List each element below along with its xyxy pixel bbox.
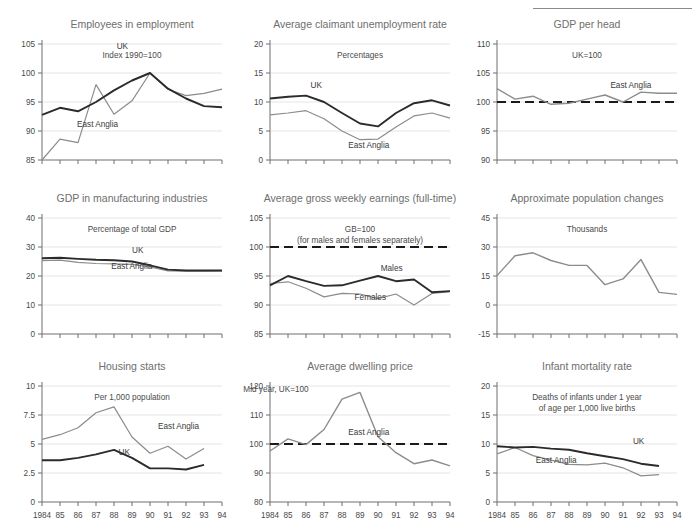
chart-subtitle: Index 1990=100 xyxy=(103,51,162,60)
y-tick-label: 100 xyxy=(249,243,263,252)
chart-subtitle: Percentage of total GDP xyxy=(88,225,177,234)
chart-title: GDP in manufacturing industries xyxy=(57,192,208,204)
series-line-east-anglia xyxy=(42,73,222,160)
x-tick-label: 86 xyxy=(528,511,538,520)
series-label-females: Females xyxy=(355,293,386,302)
x-tick-label: 94 xyxy=(217,511,227,520)
y-tick-label: 5 xyxy=(485,469,490,478)
y-tick-label: 0 xyxy=(30,330,35,339)
x-tick-label: 90 xyxy=(145,511,155,520)
y-tick-label: 10 xyxy=(26,301,36,310)
series-line-uk xyxy=(270,96,450,127)
y-tick-label: 15 xyxy=(481,272,491,281)
y-tick-label: 90 xyxy=(481,156,491,165)
x-tick-label: 92 xyxy=(409,511,419,520)
y-tick-label: 15 xyxy=(481,411,491,420)
x-tick-label: 87 xyxy=(319,511,329,520)
series-label-east-anglia: East Anglia xyxy=(77,120,118,129)
series-label-east-anglia: East Anglia xyxy=(158,422,199,431)
x-tick-label: 1984 xyxy=(33,511,52,520)
chart-subtitle: Per 1,000 population xyxy=(94,393,170,402)
y-tick-label: 110 xyxy=(477,40,490,49)
chart-subtitle: Thousands xyxy=(567,225,608,234)
chart-title: Infant mortality rate xyxy=(542,360,632,372)
chart-subtitle: UK=100 xyxy=(572,51,602,60)
series-label-east-anglia: East Anglia xyxy=(536,456,577,465)
y-tick-label: 105 xyxy=(249,214,263,223)
chart-panel-average-dwelling-price: 8090100110120East AngliaAverage dwelling… xyxy=(228,350,458,532)
chart-subtitle-line1: Deaths of infants under 1 year xyxy=(532,393,642,402)
y-tick-label: 80 xyxy=(254,498,264,507)
y-tick-label: 7.5 xyxy=(24,411,36,420)
y-tick-label: 85 xyxy=(254,330,264,339)
y-tick-label: 20 xyxy=(481,382,491,391)
y-tick-label: 30 xyxy=(481,243,491,252)
y-tick-label: 10 xyxy=(254,98,264,107)
series-label-males: Males xyxy=(381,264,403,273)
y-tick-label: 100 xyxy=(249,440,263,449)
y-tick-label: 15 xyxy=(254,69,264,78)
series-label-uk: UK xyxy=(117,42,129,51)
chart-panel-infant-mortality-rate: 05101520UKEast AngliaInfant mortality ra… xyxy=(455,350,685,532)
y-tick-label: 95 xyxy=(481,127,491,136)
chart-title: Average claimant unemployment rate xyxy=(273,18,447,30)
y-tick-label: -15 xyxy=(478,330,490,339)
x-tick-label: 94 xyxy=(445,511,455,520)
y-tick-label: 110 xyxy=(250,411,263,420)
y-tick-label: 5 xyxy=(258,127,263,136)
x-tick-label: 92 xyxy=(181,511,191,520)
x-tick-label: 85 xyxy=(510,511,520,520)
chart-panel-gdp-per-head: 9095100105110East AngliaGDP per headUK=1… xyxy=(455,8,685,182)
x-tick-label: 93 xyxy=(654,511,664,520)
x-tick-label: 89 xyxy=(582,511,592,520)
chart-panel-approximate-population-changes: -150153045Approximate population changes… xyxy=(455,182,685,356)
series-line-uk xyxy=(497,446,659,466)
chart-subtitle-line1: GB=100 xyxy=(345,225,376,234)
y-tick-label: 95 xyxy=(254,272,264,281)
y-tick-label: 10 xyxy=(26,382,36,391)
chart-title: Approximate population changes xyxy=(511,192,664,204)
x-tick-label: 87 xyxy=(546,511,556,520)
series-label-uk: UK xyxy=(311,81,323,90)
x-tick-label: 91 xyxy=(163,511,173,520)
x-tick-label: 89 xyxy=(127,511,137,520)
series-label-uk: UK xyxy=(132,246,144,255)
x-tick-label: 88 xyxy=(564,511,574,520)
x-tick-label: 86 xyxy=(301,511,311,520)
y-tick-label: 40 xyxy=(26,214,36,223)
x-tick-label: 91 xyxy=(618,511,628,520)
chart-title: Housing starts xyxy=(98,360,165,372)
y-tick-label: 105 xyxy=(21,40,35,49)
x-tick-label: 93 xyxy=(427,511,437,520)
y-tick-label: 100 xyxy=(476,98,490,107)
chart-title: Average gross weekly earnings (full-time… xyxy=(264,192,456,204)
y-tick-label: 0 xyxy=(258,156,263,165)
chart-title: Average dwelling price xyxy=(307,360,413,372)
chart-subtitle-line2: (for males and females separately) xyxy=(297,236,423,245)
x-tick-label: 92 xyxy=(636,511,646,520)
y-tick-label: 85 xyxy=(26,156,36,165)
y-tick-label: 20 xyxy=(26,272,36,281)
x-tick-label: 94 xyxy=(672,511,682,520)
x-tick-label: 1984 xyxy=(261,511,280,520)
x-tick-label: 93 xyxy=(199,511,209,520)
y-tick-label: 100 xyxy=(21,69,35,78)
y-tick-label: 0 xyxy=(30,498,35,507)
y-tick-label: 10 xyxy=(481,440,491,449)
y-tick-label: 90 xyxy=(26,127,36,136)
y-tick-label: 5 xyxy=(30,440,35,449)
series-label-east-anglia: East Anglia xyxy=(348,141,389,150)
x-tick-label: 89 xyxy=(355,511,365,520)
chart-panel-claimant-unemployment-rate: 05101520UKEast AngliaAverage claimant un… xyxy=(228,8,458,182)
x-tick-label: 1984 xyxy=(488,511,507,520)
series-label-east-anglia: East Anglia xyxy=(348,428,389,437)
x-tick-label: 88 xyxy=(337,511,347,520)
y-tick-label: 20 xyxy=(254,40,264,49)
series-line-east-anglia xyxy=(497,253,677,295)
series-line-males xyxy=(270,276,450,292)
figure-sheet: 859095100105UKEast AngliaEmployees in em… xyxy=(0,0,692,532)
chart-subtitle-line2: of age per 1,000 live births xyxy=(539,404,636,413)
series-label-east-anglia: East Anglia xyxy=(111,262,152,271)
y-tick-label: 2.5 xyxy=(24,469,36,478)
series-label-uk: UK xyxy=(119,448,131,457)
